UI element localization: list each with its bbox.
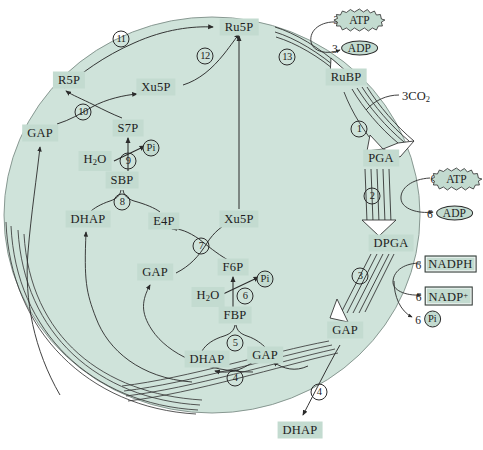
step-number-12: 12	[197, 48, 214, 65]
metabolite-sbp: SBP	[106, 172, 139, 189]
metabolite-s7p: S7P	[113, 120, 144, 137]
substrate-co2: 3CO2	[402, 89, 430, 104]
step-number-1: 1	[351, 121, 368, 138]
metabolite-xu5p-low: Xu5P	[219, 211, 258, 228]
calvin-cycle-diagram: Ru5P R5P Xu5P RuBP GAP S7P SBP PGA DHAP …	[0, 0, 483, 450]
pi-circle: Pi	[424, 311, 441, 328]
step-number-5: 5	[227, 335, 244, 352]
cofactor-atp-3: 3 ATP	[333, 14, 376, 26]
metabolite-rubp: RuBP	[326, 69, 367, 86]
nadph-stoichiometry: 6	[416, 258, 422, 270]
step-number-6: 6	[237, 288, 254, 305]
metabolite-r5p: R5P	[53, 72, 85, 89]
metabolite-fbp: FBP	[219, 307, 252, 324]
product-pi-lower: Pi	[257, 271, 274, 288]
co2-subscript: 2	[426, 94, 430, 104]
metabolite-f6p: F6P	[218, 259, 249, 276]
nadp-label: NADP+	[424, 287, 472, 306]
cofactor-nadph-6: 6 NADPH	[416, 256, 477, 273]
adp-label: ADP	[436, 206, 473, 221]
nadp-superscript: +	[463, 290, 468, 300]
nadp-stoichiometry: 6	[416, 290, 422, 302]
metabolite-gap-right: GAP	[327, 322, 363, 339]
cofactor-adp-3: 3 ADP	[332, 41, 378, 56]
water-h: H	[84, 152, 93, 166]
atp-burst-shape: ATP	[342, 14, 376, 26]
adp-label: ADP	[341, 41, 378, 56]
metabolite-dpga: DPGA	[369, 235, 414, 252]
metabolite-gap-mid: GAP	[137, 264, 173, 281]
substrate-water-upper: H2O	[79, 151, 112, 171]
step-number-7: 7	[193, 238, 210, 255]
step-number-8: 8	[114, 194, 131, 211]
adp-stoichiometry: 6	[427, 207, 433, 219]
metabolite-pga: PGA	[363, 150, 399, 167]
step-number-2: 2	[364, 188, 381, 205]
step-number-4b: 4	[311, 384, 328, 401]
metabolite-dhap-left: DHAP	[66, 211, 111, 228]
metabolite-xu5p-mid: Xu5P	[136, 79, 175, 96]
substrate-water-lower: H2O	[192, 287, 225, 307]
water-o: O	[210, 288, 219, 302]
metabolite-dhap-mid: DHAP	[185, 351, 230, 368]
pi-stoichiometry: 6	[415, 313, 421, 325]
water-h: H	[197, 288, 206, 302]
step-number-10: 10	[75, 104, 92, 121]
pi-circle: Pi	[143, 140, 160, 157]
metabolite-e4p: E4P	[148, 213, 179, 230]
metabolite-dhap-export: DHAP	[278, 422, 323, 439]
cofactor-atp-6: 6 ATP	[430, 173, 473, 185]
step-number-13: 13	[279, 49, 296, 66]
co2-text: 3CO	[402, 89, 426, 103]
cofactor-adp-6: 6 ADP	[427, 206, 473, 221]
metabolite-ru5p-top: Ru5P	[220, 19, 259, 36]
nadp-text: NADP	[428, 290, 463, 304]
step-number-3: 3	[352, 268, 369, 285]
step-number-4a: 4	[227, 370, 244, 387]
atp-burst-shape: ATP	[439, 173, 473, 185]
step-number-11: 11	[113, 31, 130, 48]
step-number-9: 9	[120, 153, 137, 170]
product-pi-upper: Pi	[143, 140, 160, 157]
water-o: O	[97, 152, 106, 166]
cofactor-pi-6: 6 Pi	[415, 311, 441, 328]
nadph-label: NADPH	[424, 256, 476, 273]
adp-stoichiometry: 3	[332, 42, 338, 54]
atp-label: ATP	[439, 173, 473, 185]
cofactor-nadp-plus-6: 6 NADP+	[416, 287, 473, 306]
metabolite-gap-low: GAP	[247, 347, 283, 364]
atp-label: ATP	[342, 14, 376, 26]
pi-circle: Pi	[257, 271, 274, 288]
metabolite-gap-left: GAP	[22, 125, 58, 142]
